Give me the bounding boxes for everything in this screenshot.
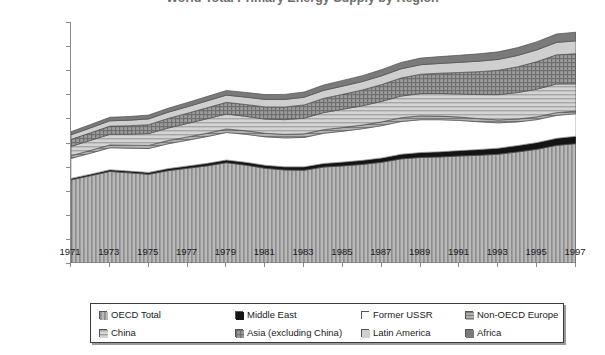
- chart-legend: OECD TotalMiddle EastFormer USSRNon-OECD…: [90, 303, 564, 343]
- x-tick-label: 1989: [400, 246, 440, 257]
- x-tick-label: 1979: [205, 246, 245, 257]
- legend-item[interactable]: Middle East: [227, 306, 353, 324]
- x-tick-label: 1975: [128, 246, 168, 257]
- x-tick-label: 1987: [361, 246, 401, 257]
- x-tick-label: 1973: [89, 246, 129, 257]
- x-tick-mark: [303, 263, 304, 267]
- x-tick-label: 1995: [516, 246, 556, 257]
- chart-title: World Total Primary Energy Supply by Reg…: [0, 0, 605, 5]
- x-tick-mark: [575, 263, 576, 267]
- legend-item[interactable]: Africa: [457, 324, 565, 342]
- legend-item[interactable]: Asia (excluding China): [227, 324, 353, 342]
- legend-label: China: [111, 328, 136, 338]
- legend-item[interactable]: Former USSR: [353, 306, 457, 324]
- x-tick-label: 1977: [167, 246, 207, 257]
- x-tick-mark: [381, 263, 382, 267]
- x-tick-mark: [225, 263, 226, 267]
- legend-label: Middle East: [247, 310, 297, 320]
- x-tick-label: 1997: [555, 246, 595, 257]
- x-tick-label: 1981: [244, 246, 284, 257]
- x-tick-mark: [458, 263, 459, 267]
- legend-swatch-middle_east: [235, 311, 243, 319]
- chart-title-strip: World Total Primary Energy Supply by Reg…: [0, 0, 605, 11]
- x-tick-mark: [342, 263, 343, 267]
- x-tick-label: 1971: [50, 246, 90, 257]
- x-tick-mark: [70, 263, 71, 267]
- legend-label: Latin America: [373, 328, 431, 338]
- x-tick-mark: [420, 263, 421, 267]
- legend-swatch-ussr: [361, 311, 369, 319]
- x-tick-mark: [264, 263, 265, 267]
- x-tick-label: 1991: [438, 246, 478, 257]
- legend-swatch-asia: [235, 329, 243, 337]
- legend-label: Former USSR: [373, 310, 433, 320]
- x-tick-mark: [109, 263, 110, 267]
- legend-label: Non-OECD Europe: [477, 310, 558, 320]
- legend-swatch-africa: [465, 329, 473, 337]
- legend-swatch-china: [99, 329, 107, 337]
- x-tick-label: 1985: [322, 246, 362, 257]
- legend-label: Africa: [477, 328, 501, 338]
- legend-item[interactable]: Latin America: [353, 324, 457, 342]
- plot-area: [70, 22, 575, 263]
- legend-label: Asia (excluding China): [247, 328, 342, 338]
- x-tick-label: 1983: [283, 246, 323, 257]
- stacked-area-plot: [71, 22, 576, 263]
- legend-swatch-oecd: [99, 311, 107, 319]
- x-tick-mark: [497, 263, 498, 267]
- x-tick-mark: [148, 263, 149, 267]
- legend-item[interactable]: OECD Total: [91, 306, 227, 324]
- legend-swatch-latin_america: [361, 329, 369, 337]
- legend-row: ChinaAsia (excluding China)Latin America…: [91, 324, 565, 342]
- x-tick-mark: [536, 263, 537, 267]
- legend-label: OECD Total: [111, 310, 161, 320]
- x-tick-mark: [187, 263, 188, 267]
- legend-item[interactable]: Non-OECD Europe: [457, 306, 565, 324]
- x-tick-label: 1993: [477, 246, 517, 257]
- chart-page: World Total Primary Energy Supply by Reg…: [0, 0, 605, 355]
- legend-item[interactable]: China: [91, 324, 227, 342]
- legend-swatch-noecd_europe: [465, 311, 473, 319]
- legend-row: OECD TotalMiddle EastFormer USSRNon-OECD…: [91, 306, 565, 324]
